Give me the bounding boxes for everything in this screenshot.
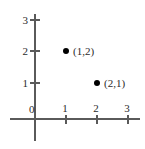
x-axis-tick-1 <box>65 115 67 124</box>
origin-label: 0 <box>29 104 35 115</box>
y-axis-line <box>34 14 36 141</box>
x-axis-line <box>10 118 140 120</box>
x-axis-tick-label-2: 2 <box>89 103 103 114</box>
data-point-2-1-label: (2,1) <box>104 78 125 89</box>
y-axis-tick-label-3: 3 <box>16 15 28 26</box>
y-axis-tick-label-1: 1 <box>16 78 28 89</box>
x-axis-tick-label-3: 3 <box>120 103 134 114</box>
x-axis-tick-3 <box>127 115 129 124</box>
coordinate-plane-figure: 1 2 3 3 2 1 0 (1,2) (2,1) <box>0 0 145 149</box>
x-axis-tick-label-1: 1 <box>58 103 72 114</box>
y-axis-tick-label-2: 2 <box>16 46 28 57</box>
data-point-1-2-label: (1,2) <box>73 46 94 57</box>
data-point-2-1-marker <box>94 80 100 86</box>
data-point-1-2-marker <box>63 48 69 54</box>
x-axis-tick-2 <box>96 115 98 124</box>
y-axis-tick-2 <box>30 50 40 52</box>
y-axis-tick-3 <box>30 19 40 21</box>
y-axis-tick-1 <box>30 82 40 84</box>
